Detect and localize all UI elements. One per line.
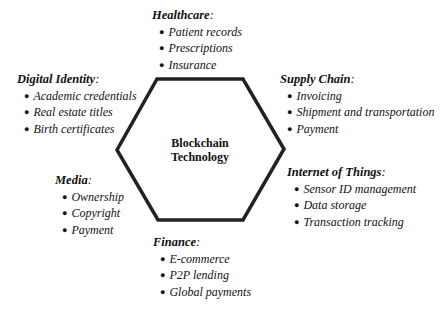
list-item: ●Sensor ID management — [294, 181, 416, 198]
list-item: ●Prescriptions — [159, 40, 242, 57]
bullet-icon: ● — [24, 91, 29, 101]
group-title: Digital Identity: — [17, 71, 137, 88]
bullet-icon: ● — [160, 270, 165, 280]
bullet-icon: ● — [62, 192, 67, 202]
list-item: ●Payment — [62, 222, 124, 239]
bullet-icon: ● — [294, 217, 299, 227]
list-item: ●Transaction tracking — [294, 214, 416, 231]
group-title: Healthcare: — [152, 7, 242, 24]
group-title: Media: — [55, 172, 124, 189]
group-healthcare: Healthcare: ●Patient records ●Prescripti… — [152, 7, 242, 73]
bullet-icon: ● — [294, 184, 299, 194]
bullet-icon: ● — [159, 43, 164, 53]
center-label-line2: Technology — [150, 150, 250, 164]
list-item: ●Invoicing — [287, 88, 434, 105]
group-internet-of-things: Internet of Things: ●Sensor ID managemen… — [287, 164, 416, 230]
bullet-icon: ● — [24, 124, 29, 134]
center-label: Blockchain Technology — [150, 136, 250, 164]
bullet-icon: ● — [294, 200, 299, 210]
bullet-icon: ● — [287, 91, 292, 101]
group-title: Internet of Things: — [287, 164, 416, 181]
group-title: Supply Chain: — [280, 71, 434, 88]
list-item: ●Birth certificates — [24, 121, 137, 138]
list-item: ●Data storage — [294, 197, 416, 214]
list-item: ●Copyright — [62, 205, 124, 222]
list-item: ●Insurance — [159, 57, 242, 74]
list-item: ●Academic credentials — [24, 88, 137, 105]
group-title: Finance: — [153, 234, 251, 251]
bullet-icon: ● — [287, 124, 292, 134]
bullet-icon: ● — [287, 107, 292, 117]
list-item: ●Patient records — [159, 24, 242, 41]
bullet-icon: ● — [62, 225, 67, 235]
bullet-icon: ● — [159, 27, 164, 37]
bullet-icon: ● — [62, 208, 67, 218]
center-label-line1: Blockchain — [150, 136, 250, 150]
group-digital-identity: Digital Identity: ●Academic credentials … — [17, 71, 137, 137]
bullet-icon: ● — [159, 60, 164, 70]
list-item: ●Ownership — [62, 189, 124, 206]
list-item: ●E-commerce — [160, 251, 251, 268]
bullet-icon: ● — [160, 287, 165, 297]
group-finance: Finance: ●E-commerce ●P2P lending ●Globa… — [153, 234, 251, 300]
group-supply-chain: Supply Chain: ●Invoicing ●Shipment and t… — [280, 71, 434, 137]
list-item: ●Shipment and transportation — [287, 104, 434, 121]
list-item: ●Payment — [287, 121, 434, 138]
group-media: Media: ●Ownership ●Copyright ●Payment — [55, 172, 124, 238]
list-item: ●Global payments — [160, 284, 251, 301]
bullet-icon: ● — [160, 254, 165, 264]
bullet-icon: ● — [24, 107, 29, 117]
list-item: ●P2P lending — [160, 267, 251, 284]
list-item: ●Real estate titles — [24, 104, 137, 121]
